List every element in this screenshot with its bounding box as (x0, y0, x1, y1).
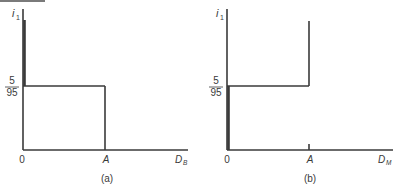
caption-b: (b) (304, 173, 316, 184)
y-axis-label-a: i (12, 7, 15, 19)
x-tick-label-a: A (102, 154, 110, 165)
caption-a: (a) (101, 173, 113, 184)
panel-b: i 1 5 95 0 A D M (b) (209, 7, 393, 184)
x-axis-subscript-a: B (183, 159, 188, 166)
x-axis-subscript-b: M (386, 159, 392, 166)
y-axis-subscript-b: 1 (220, 14, 224, 21)
y-tick-den-b: 95 (210, 87, 222, 98)
x-tick-label-b: A (306, 154, 314, 165)
y-tick-den-a: 95 (6, 87, 18, 98)
panel-a: i 1 5 95 0 A D B (a) (5, 7, 188, 184)
x-origin-label-a: 0 (19, 154, 25, 165)
cropped-header-fragment (0, 0, 45, 2)
y-tick-num-b: 5 (213, 75, 219, 86)
x-axis-label-b: D (378, 154, 385, 165)
x-origin-label-b: 0 (224, 154, 230, 165)
y-tick-num-a: 5 (9, 75, 15, 86)
y-axis-label-b: i (216, 7, 219, 19)
x-axis-label-a: D (175, 154, 182, 165)
diagram-canvas: i 1 5 95 0 A D B (a) i 1 5 95 0 A D (0, 0, 394, 189)
y-axis-subscript-a: 1 (16, 14, 20, 21)
